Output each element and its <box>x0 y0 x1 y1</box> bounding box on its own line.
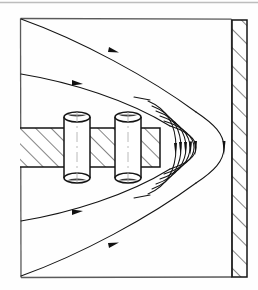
diagram-canvas <box>0 0 258 290</box>
coil-2 <box>115 112 141 184</box>
right-wall <box>232 20 247 277</box>
coil-1 <box>64 112 90 184</box>
technical-diagram: Magnetic field lines around a hatched co… <box>0 0 258 290</box>
